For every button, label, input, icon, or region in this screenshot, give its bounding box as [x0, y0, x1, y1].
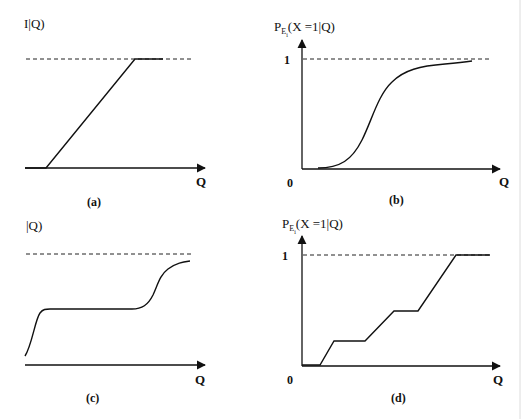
panel-c-caption: (c) [86, 391, 99, 405]
panel-b: PEi(X =1|Q) 1 0 Q (b) [274, 19, 509, 207]
panel-b-curve [318, 61, 472, 168]
panel-b-caption: (b) [389, 193, 404, 207]
panel-a-caption: (a) [87, 195, 101, 209]
panel-c: |Q) Q (c) [25, 218, 205, 405]
panel-a: I|Q) Q (a) [24, 16, 206, 209]
panel-d-x-label: Q [493, 372, 503, 387]
figure-canvas: I|Q) Q (a) PEi(X =1|Q) 1 0 Q (b) |Q) Q (… [0, 0, 525, 419]
panel-d-curve [302, 255, 490, 365]
panel-d-y-tick-0: 0 [287, 373, 293, 387]
panel-b-y-tick-1: 1 [284, 53, 290, 67]
panel-d-y-tick-1: 1 [282, 249, 288, 263]
panel-c-y-label: |Q) [26, 218, 42, 233]
panel-b-x-label: Q [499, 174, 509, 189]
panel-c-x-label: Q [195, 372, 205, 387]
panel-d: PEi(X =1|Q) 1 0 Q (d) [282, 216, 503, 405]
panel-a-y-label: I|Q) [24, 16, 45, 31]
panel-b-y-tick-0: 0 [287, 176, 293, 190]
panel-d-y-label: PEi(X =1|Q) [282, 216, 343, 235]
panel-b-y-label: PEi(X =1|Q) [274, 19, 335, 38]
panel-a-x-label: Q [196, 174, 206, 189]
panel-a-curve [25, 59, 163, 168]
panel-d-caption: (d) [391, 391, 406, 405]
panel-c-curve [25, 261, 190, 356]
